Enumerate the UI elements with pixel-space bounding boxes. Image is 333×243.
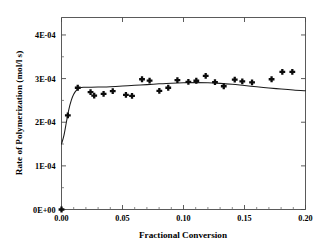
x-tick-label: 0.10 (176, 214, 190, 223)
figure-container: 0.000.050.100.150.20 0E+001E-042E-043E-0… (0, 0, 333, 243)
y-tick-label: 1E-04 (35, 162, 55, 171)
polymerization-rate-chart: 0.000.050.100.150.20 0E+001E-042E-043E-0… (0, 0, 333, 243)
x-tick-label: 0.00 (54, 214, 68, 223)
x-tick-label: 0.15 (237, 214, 251, 223)
y-tick-label: 3E-04 (35, 75, 55, 84)
x-tick-label: 0.05 (115, 214, 129, 223)
x-axis-title: Fractional Conversion (139, 230, 227, 240)
x-tick-label: 0.20 (298, 214, 312, 223)
y-tick-label: 4E-04 (35, 31, 55, 40)
y-axis-title: Rate of Polymerization (mol/l s) (14, 51, 24, 176)
y-tick-label: 0E+00 (33, 206, 55, 215)
y-tick-label: 2E-04 (35, 118, 55, 127)
